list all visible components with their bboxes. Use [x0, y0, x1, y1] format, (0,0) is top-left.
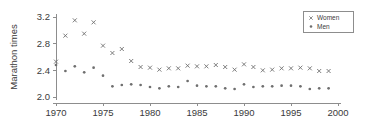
data-point — [186, 64, 190, 68]
data-point — [92, 66, 95, 69]
x-tick-label-1995: 1995 — [280, 107, 301, 118]
data-point — [139, 84, 142, 87]
series-men — [55, 64, 330, 91]
data-point — [83, 71, 86, 74]
data-point — [101, 44, 105, 48]
chart-plot-area: 2.02.42.83.21970197519801985199019952000… — [0, 0, 365, 127]
data-point — [317, 69, 321, 73]
y-tick-label-2.4: 2.4 — [37, 65, 50, 76]
data-point — [280, 66, 284, 70]
data-point — [224, 87, 227, 90]
data-point — [204, 64, 208, 68]
data-point — [327, 69, 331, 73]
data-point — [308, 66, 312, 70]
data-point — [233, 68, 237, 72]
data-point — [148, 66, 152, 70]
data-point — [102, 74, 105, 77]
data-point — [130, 83, 133, 86]
data-point — [110, 51, 114, 55]
data-point — [82, 32, 86, 36]
legend-marker-men-icon — [310, 25, 313, 28]
data-point — [298, 66, 302, 70]
x-tick-label-1980: 1980 — [139, 107, 160, 118]
data-point — [167, 85, 170, 88]
y-axis-title: Marathon times — [8, 24, 19, 90]
data-point — [270, 68, 274, 72]
x-tick-label-1985: 1985 — [186, 107, 207, 118]
data-point — [280, 84, 283, 87]
legend-label-women: Women — [317, 14, 340, 21]
data-point — [195, 64, 199, 68]
data-point — [243, 83, 246, 86]
data-point — [177, 86, 180, 89]
data-point — [176, 66, 180, 70]
y-tick-label-2.8: 2.8 — [37, 38, 50, 49]
data-point — [214, 85, 217, 88]
data-point — [308, 88, 311, 91]
data-point — [289, 66, 293, 70]
series-women — [54, 18, 331, 73]
data-point — [327, 87, 330, 90]
data-point — [318, 87, 321, 90]
data-point — [242, 62, 246, 66]
data-point — [55, 64, 58, 67]
data-point — [139, 65, 143, 69]
x-tick-label-1970: 1970 — [45, 107, 66, 118]
data-point — [64, 70, 67, 73]
data-point — [271, 85, 274, 88]
x-tick-label-1975: 1975 — [92, 107, 113, 118]
data-point — [233, 88, 236, 91]
x-tick-label-1990: 1990 — [233, 107, 254, 118]
marathon-times-chart: 2.02.42.83.21970197519801985199019952000… — [0, 0, 365, 127]
legend-label-men: Men — [317, 23, 330, 30]
data-point — [158, 87, 161, 90]
data-point — [214, 63, 218, 67]
data-point — [252, 86, 255, 89]
y-tick-label-3.2: 3.2 — [37, 11, 50, 22]
data-point — [299, 85, 302, 88]
data-point — [63, 34, 67, 38]
data-point — [186, 80, 189, 83]
data-point — [261, 68, 265, 72]
data-point — [111, 85, 114, 88]
data-point — [129, 59, 133, 63]
data-point — [167, 66, 171, 70]
data-point — [73, 18, 77, 22]
data-point — [290, 84, 293, 87]
data-point — [120, 47, 124, 51]
data-point — [261, 85, 264, 88]
y-tick-label-2.0: 2.0 — [37, 91, 50, 102]
data-point — [149, 86, 152, 89]
x-tick-label-2000: 2000 — [327, 107, 348, 118]
data-point — [251, 65, 255, 69]
data-point — [92, 20, 96, 24]
data-point — [196, 84, 199, 87]
data-point — [73, 65, 76, 68]
data-point — [157, 68, 161, 72]
data-point — [205, 85, 208, 88]
data-point — [120, 84, 123, 87]
data-point — [223, 65, 227, 69]
